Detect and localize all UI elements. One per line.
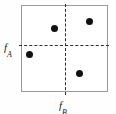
axis-label-fb-subscript: B [62, 108, 67, 114]
axis-label-fa-subscript: A [7, 50, 12, 59]
vertical-threshold-line [65, 4, 66, 95]
data-point [51, 25, 58, 32]
figure-root: fA fB [0, 0, 116, 114]
axis-label-fa: fA [4, 38, 12, 57]
horizontal-threshold-line [19, 45, 109, 46]
data-point [26, 51, 33, 58]
data-point [76, 70, 83, 77]
axis-label-fb: fB [59, 96, 67, 114]
data-point [86, 18, 93, 25]
